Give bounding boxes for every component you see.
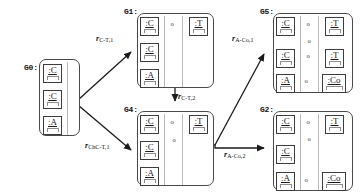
node-g5-a[interactable]: :A	[276, 74, 295, 93]
node-g5-c2[interactable]: :C	[276, 49, 295, 68]
node-label: :T	[331, 18, 339, 29]
diagram-canvas: G0: :C :C :A G1: :C :C :A	[0, 0, 363, 194]
node-g4-a[interactable]: :A	[140, 167, 159, 186]
node-label: :C	[281, 50, 290, 61]
rule-subscript: A-Co,1	[235, 37, 253, 43]
lane-divider-g2-b	[318, 114, 319, 190]
graph-container-g1[interactable]: :C :C :A :T	[137, 13, 214, 88]
node-g2-c2[interactable]: :C	[276, 145, 295, 164]
node-label: :T	[331, 50, 339, 61]
graph-container-g0[interactable]: :C :C :A	[39, 59, 80, 136]
node-label: :Co	[327, 75, 340, 86]
node-label: :C	[48, 65, 57, 76]
node-compartment	[193, 29, 205, 33]
node-g1-a[interactable]: :A	[140, 69, 159, 88]
node-compartment	[144, 127, 156, 131]
node-compartment	[144, 81, 156, 85]
node-compartment	[280, 29, 292, 33]
graph-container-g4[interactable]: :C :C :A :T	[137, 111, 214, 186]
node-g0-c2[interactable]: :C	[43, 90, 62, 109]
node-compartment	[193, 127, 205, 131]
node-g2-t1[interactable]: :T	[325, 115, 344, 134]
node-g5-co[interactable]: :Co	[322, 74, 346, 93]
assoc-marker-g4-diag: o	[172, 137, 176, 144]
node-g4-t1[interactable]: :T	[189, 115, 208, 134]
node-compartment	[47, 76, 59, 80]
node-compartment	[144, 29, 156, 33]
lane-divider-g4-b	[182, 114, 183, 185]
node-compartment	[329, 127, 341, 131]
node-compartment	[326, 184, 343, 188]
node-compartment	[329, 29, 341, 33]
graph-label-g0: G0:	[24, 63, 38, 72]
node-compartment	[47, 128, 59, 132]
rule-label-c-t-1: rC-T,1	[96, 34, 113, 43]
node-label: :A	[281, 75, 290, 86]
node-g4-c1[interactable]: :C	[140, 115, 159, 134]
node-label: :C	[281, 18, 290, 29]
arrow-g4-g5	[215, 54, 264, 145]
node-g0-c1[interactable]: :C	[43, 64, 62, 83]
lane-divider-g1-b	[182, 16, 183, 87]
node-label: :T	[195, 18, 203, 29]
node-g4-c2[interactable]: :C	[140, 141, 159, 160]
node-g5-t2[interactable]: :T	[325, 49, 344, 68]
node-label: :C	[145, 116, 154, 127]
node-label: :T	[195, 116, 203, 127]
node-compartment	[144, 179, 156, 183]
graph-label-g4: G4:	[124, 105, 138, 114]
node-label: :C	[281, 146, 290, 157]
node-compartment	[280, 157, 292, 161]
node-g2-a[interactable]: :A	[276, 172, 295, 191]
node-label: :Co	[327, 173, 340, 184]
node-label: :A	[281, 173, 290, 184]
node-label: :C	[281, 116, 290, 127]
node-compartment	[329, 61, 341, 65]
rule-label-chc-t-1: rChC-T,1	[85, 141, 110, 150]
rule-subscript: C-T,1	[99, 37, 113, 43]
lane-divider-g2-a	[300, 114, 301, 190]
rule-subscript: ChC-T,1	[88, 144, 109, 150]
node-g0-a[interactable]: :A	[43, 116, 62, 135]
node-label: :C	[145, 18, 154, 29]
assoc-marker-g5-top: o	[306, 21, 310, 28]
node-compartment	[144, 55, 156, 59]
node-label: :C	[145, 142, 154, 153]
assoc-marker-g2-diag: o	[307, 136, 311, 143]
assoc-marker-g2-top: o	[306, 119, 310, 126]
node-label: :T	[331, 116, 339, 127]
node-label: :A	[48, 117, 57, 128]
rule-label-a-co-1: rA-Co,1	[232, 34, 254, 43]
node-label: :C	[145, 44, 154, 55]
node-compartment	[280, 61, 292, 65]
graph-container-g2[interactable]: :C :C :A :T :Co	[273, 111, 353, 191]
assoc-marker-g5-diag: o	[307, 38, 311, 45]
node-g2-c1[interactable]: :C	[276, 115, 295, 134]
graph-label-g2: G2:	[260, 105, 274, 114]
assoc-marker-g1: o	[170, 21, 174, 28]
arrow-g0-g1	[78, 52, 131, 100]
node-label: :A	[145, 168, 154, 179]
rule-label-c-t-2: rC-T,2	[178, 92, 195, 101]
rule-label-a-co-2: rA-Co,2	[224, 150, 246, 159]
graph-label-g1: G1:	[124, 7, 138, 16]
rule-subscript: C-T,2	[181, 95, 195, 101]
node-g2-co[interactable]: :Co	[322, 172, 346, 191]
node-g1-c2[interactable]: :C	[140, 43, 159, 62]
lane-divider-g1-a	[164, 16, 165, 87]
node-g1-t1[interactable]: :T	[189, 17, 208, 36]
assoc-marker-g5-bot: o	[304, 78, 308, 85]
graph-container-g5[interactable]: :C :C :A :T :T :Co	[273, 13, 353, 93]
node-label: :A	[145, 70, 154, 81]
graph-label-g5: G5:	[260, 7, 274, 16]
node-g5-t1[interactable]: :T	[325, 17, 344, 36]
assoc-marker-g4: o	[170, 119, 174, 126]
node-g5-c1[interactable]: :C	[276, 17, 295, 36]
lane-divider-g4-a	[164, 114, 165, 185]
lane-divider-g5-a	[300, 16, 301, 92]
node-compartment	[144, 153, 156, 157]
assoc-marker-g2-bot: o	[304, 177, 308, 184]
node-compartment	[326, 86, 343, 90]
node-label: :C	[48, 91, 57, 102]
node-g1-c1[interactable]: :C	[140, 17, 159, 36]
